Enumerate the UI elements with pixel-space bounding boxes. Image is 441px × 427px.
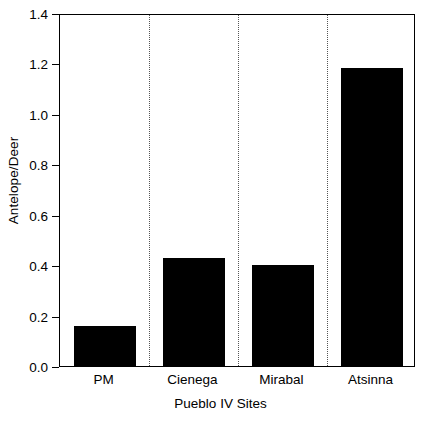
y-tick-mark: [52, 266, 59, 267]
bar: [163, 258, 225, 366]
x-tick-label: Atsinna: [326, 372, 415, 387]
bar: [252, 265, 314, 366]
y-tick-mark: [52, 64, 59, 65]
y-tick-mark: [52, 317, 59, 318]
x-axis-title-label: Pueblo IV Sites: [174, 396, 266, 411]
bar-chart: Antelope/Deer 0.00.20.40.60.81.01.21.4 P…: [0, 0, 441, 427]
x-axis-title: Pueblo IV Sites: [0, 396, 441, 411]
bar: [74, 326, 136, 366]
gridline-vertical: [238, 15, 239, 366]
y-tick-mark: [52, 216, 59, 217]
bar: [341, 68, 403, 366]
y-tick-label: 0.8: [14, 158, 48, 173]
gridline-vertical: [327, 15, 328, 366]
y-tick-label: 0.6: [14, 208, 48, 223]
y-tick-label: 0.4: [14, 259, 48, 274]
y-tick-label: 0.2: [14, 309, 48, 324]
x-tick-label: Mirabal: [237, 372, 326, 387]
y-tick-mark: [52, 367, 59, 368]
gridline-vertical: [149, 15, 150, 366]
y-tick-label: 0.0: [14, 360, 48, 375]
y-tick-mark: [52, 165, 59, 166]
plot-area: [59, 14, 415, 367]
y-axis-title: Antelope/Deer: [4, 0, 24, 360]
x-tick-label: PM: [59, 372, 148, 387]
y-tick-label: 1.4: [14, 7, 48, 22]
y-tick-mark: [52, 14, 59, 15]
y-tick-mark: [52, 115, 59, 116]
x-tick-label: Cienega: [148, 372, 237, 387]
y-tick-label: 1.2: [14, 57, 48, 72]
y-tick-label: 1.0: [14, 107, 48, 122]
